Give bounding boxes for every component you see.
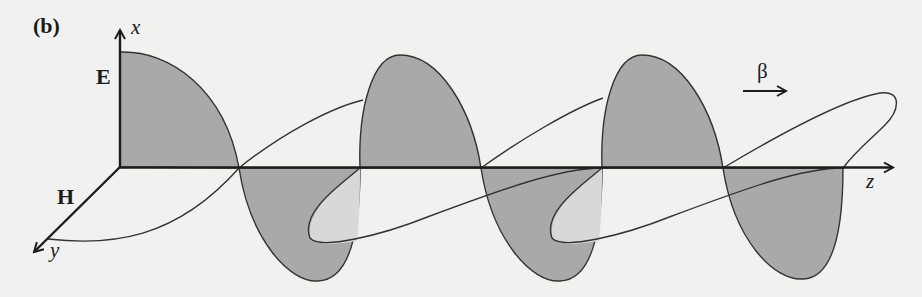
h-loop-upper-1 — [239, 100, 363, 168]
y-axis — [34, 167, 120, 252]
em-wave-figure: (b) x y z E H β — [0, 0, 922, 297]
beta-label: β — [757, 61, 768, 82]
e-lobe-upper-0 — [120, 52, 239, 168]
h-loop-upper-5 — [723, 93, 896, 168]
wave-diagram-svg — [0, 0, 922, 297]
magnetic-field-label: H — [57, 186, 74, 208]
h-loop-upper-3 — [481, 98, 603, 168]
e-lobe-lower-5 — [723, 168, 843, 279]
e-lobe-upper-2 — [360, 55, 481, 168]
electric-field-label: E — [96, 66, 111, 88]
axis-x-label: x — [131, 17, 140, 38]
axis-y-label: y — [50, 240, 59, 261]
e-lobe-upper-4 — [602, 55, 723, 168]
h-curve-0 — [48, 168, 239, 241]
axis-z-label: z — [866, 171, 874, 192]
panel-label: (b) — [33, 15, 60, 37]
